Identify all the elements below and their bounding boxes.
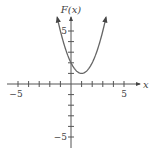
y-axis-label: F(x) xyxy=(60,4,81,15)
y-tick-label: 5 xyxy=(61,26,67,36)
x-tick-label: 5 xyxy=(121,89,127,99)
x-axis-label: x xyxy=(143,79,149,90)
y-tick-label: −5 xyxy=(54,132,68,142)
x-tick-label: −5 xyxy=(9,89,23,99)
function-graph: x F(x) −555−5 xyxy=(0,0,153,155)
